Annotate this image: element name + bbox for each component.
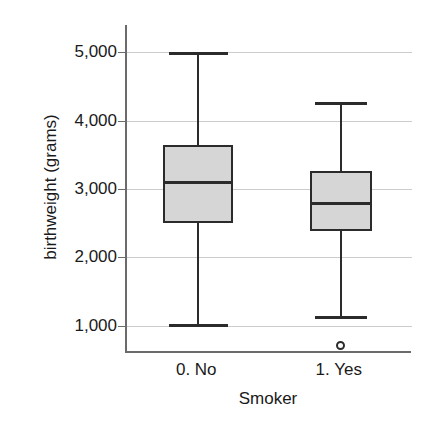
lower-whisker-line	[340, 231, 342, 316]
y-axis-tick-label: 3,000	[47, 180, 117, 197]
plot-area	[125, 25, 411, 353]
y-axis-tick-label: 2,000	[47, 248, 117, 265]
y-axis-tick-mark	[118, 326, 125, 327]
lower-whisker-line	[197, 223, 199, 324]
boxplot-figure: birthweight (grams) 1,0002,0003,0004,000…	[0, 0, 422, 431]
box-plot-1	[163, 25, 233, 353]
y-axis-tick-label: 1,000	[47, 317, 117, 334]
x-axis-title: Smoker	[125, 389, 411, 409]
y-axis-tick-mark	[118, 121, 125, 122]
x-axis-tick-label: 1. Yes	[279, 360, 399, 379]
upper-whisker-cap	[315, 102, 367, 105]
median-line	[163, 181, 233, 184]
y-axis-tick-labels: 1,0002,0003,0004,0005,000	[45, 25, 117, 353]
y-axis-tick-label: 5,000	[47, 43, 117, 60]
box-iqr-rect	[310, 171, 372, 232]
y-axis-tick-label: 4,000	[47, 112, 117, 129]
median-line	[310, 202, 372, 205]
lower-whisker-cap	[315, 316, 367, 319]
y-axis-tick-mark	[118, 257, 125, 258]
upper-whisker-cap	[169, 52, 228, 55]
y-axis-tick-mark	[118, 52, 125, 53]
upper-whisker-line	[197, 52, 199, 144]
x-axis-tick-label: 0. No	[136, 360, 256, 379]
box-plot-2	[310, 25, 372, 353]
lower-whisker-cap	[169, 324, 228, 327]
upper-whisker-line	[340, 102, 342, 171]
y-axis-tick-mark	[118, 189, 125, 190]
y-axis-title-container: birthweight (grams)	[0, 22, 34, 352]
outlier-point	[336, 341, 345, 350]
